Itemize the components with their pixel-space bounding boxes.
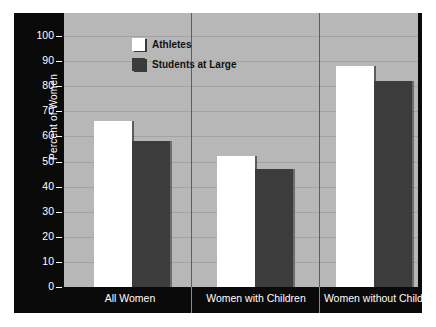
y-axis-tick-label: 0 <box>48 280 54 292</box>
y-axis-tick-mark <box>56 162 62 163</box>
legend-swatch-icon <box>132 38 145 51</box>
y-axis-tick-mark <box>56 61 62 62</box>
y-axis-tick-label: 100 <box>36 29 54 41</box>
y-axis-tick-label: 60 <box>42 129 54 141</box>
y-axis-tick-label: 70 <box>42 104 54 116</box>
y-axis-tick-mark <box>56 111 62 112</box>
legend-label: Students at Large <box>152 59 236 70</box>
legend-item-athletes: Athletes <box>132 36 292 53</box>
bar-athletes <box>217 156 255 287</box>
y-axis-tick-mark <box>56 262 62 263</box>
bar-students <box>374 81 412 287</box>
bar-chart: Percent of Women 0102030405060708090100 … <box>14 13 422 313</box>
chart-legend: AthletesStudents at Large <box>132 36 292 76</box>
legend-swatch-icon <box>132 58 145 71</box>
y-axis-tick-mark <box>56 136 62 137</box>
legend-item-students-at-large: Students at Large <box>132 56 292 73</box>
y-axis-tick-label: 80 <box>42 79 54 91</box>
group-divider <box>319 13 320 287</box>
y-axis-tick-mark <box>56 237 62 238</box>
y-axis-tick-mark <box>56 187 62 188</box>
y-axis-tick-mark <box>56 86 62 87</box>
y-axis-tick-mark <box>56 287 62 288</box>
y-axis-tick-mark <box>56 36 62 37</box>
y-axis-tick-label: 10 <box>42 255 54 267</box>
y-axis-tick-mark <box>56 212 62 213</box>
legend-label: Athletes <box>152 39 191 50</box>
y-axis-tick-label: 40 <box>42 180 54 192</box>
y-axis-tick-label: 50 <box>42 155 54 167</box>
x-axis-category-label: Women without Children <box>311 292 436 304</box>
y-axis-tick-label: 90 <box>42 54 54 66</box>
x-axis: All WomenWomen with ChildrenWomen withou… <box>64 287 418 313</box>
y-axis-tick-label: 20 <box>42 230 54 242</box>
y-axis: 0102030405060708090100 <box>14 13 64 313</box>
bar-students <box>132 141 170 287</box>
x-axis-category-label: Women with Children <box>186 292 326 304</box>
bar-athletes <box>94 121 132 287</box>
bar-athletes <box>336 66 374 287</box>
y-axis-tick-label: 30 <box>42 205 54 217</box>
x-axis-category-label: All Women <box>60 292 200 304</box>
bar-students <box>255 169 293 287</box>
